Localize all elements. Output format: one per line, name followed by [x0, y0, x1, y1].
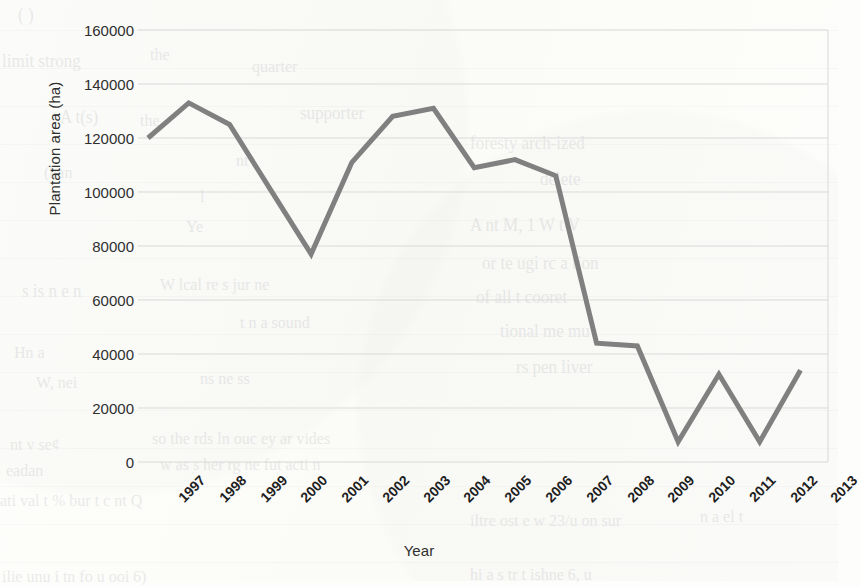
y-axis-title: Plantation area (ha): [46, 29, 63, 269]
x-tick-label-2005: 2005: [501, 472, 534, 505]
x-tick-label-2010: 2010: [705, 472, 738, 505]
x-tick-label-2003: 2003: [420, 472, 453, 505]
x-tick-label-2007: 2007: [583, 472, 616, 505]
x-tick-label-2013: 2013: [828, 472, 861, 505]
x-tick-label-2001: 2001: [338, 472, 371, 505]
x-axis-title: Year: [0, 542, 838, 559]
x-tick-label-2002: 2002: [379, 472, 412, 505]
x-tick-label-2009: 2009: [664, 472, 697, 505]
x-tick-label-2000: 2000: [297, 472, 330, 505]
x-tick-label-1997: 1997: [175, 472, 208, 505]
x-tick-label-2006: 2006: [542, 472, 575, 505]
x-tick-label-2008: 2008: [624, 472, 657, 505]
x-tick-label-2012: 2012: [787, 472, 820, 505]
x-tick-label-2004: 2004: [461, 472, 494, 505]
x-tick-label-1999: 1999: [257, 472, 290, 505]
x-tick-label-2011: 2011: [746, 472, 779, 505]
x-tick-label-1998: 1998: [216, 472, 249, 505]
